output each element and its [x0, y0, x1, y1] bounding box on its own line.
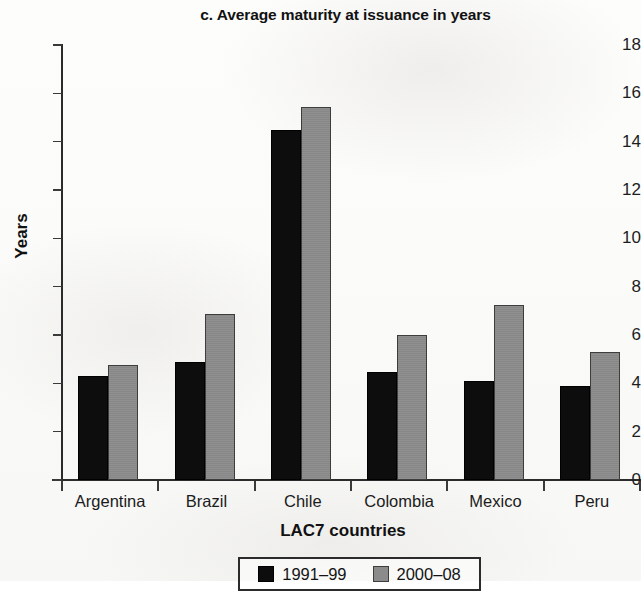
chart-legend: 1991–992000–08: [238, 557, 481, 591]
x-axis-label-mexico: Mexico: [447, 492, 543, 511]
bar-chile-series-0: [271, 130, 301, 480]
y-axis-tick: [53, 383, 62, 385]
bar-mexico-series-1: [494, 305, 524, 480]
bar-argentina-series-1: [108, 365, 138, 480]
y-axis-tick: [53, 286, 62, 288]
x-axis-label-brazil: Brazil: [158, 492, 254, 511]
x-axis-label-colombia: Colombia: [351, 492, 447, 511]
bar-brazil-series-0: [175, 362, 205, 480]
x-axis-tick: [254, 481, 256, 491]
chart-title: c. Average maturity at issuance in years: [0, 6, 641, 24]
legend-swatch-icon: [258, 566, 274, 582]
y-axis-tick: [53, 44, 62, 46]
y-axis-tick: [53, 93, 62, 95]
y-axis-tick: [53, 189, 62, 191]
x-axis-label-peru: Peru: [544, 492, 640, 511]
legend-item-0[interactable]: 1991–99: [258, 565, 346, 584]
legend-item-1[interactable]: 2000–08: [373, 565, 461, 584]
legend-swatch-icon: [373, 566, 389, 582]
bar-peru-series-1: [590, 352, 620, 480]
legend-label: 2000–08: [397, 565, 461, 584]
bar-colombia-series-1: [397, 335, 427, 480]
bar-chile-series-1: [301, 107, 331, 480]
y-axis-tick: [53, 141, 62, 143]
y-axis-tick: [53, 431, 62, 433]
bar-brazil-series-1: [205, 314, 235, 480]
x-axis-label-argentina: Argentina: [62, 492, 158, 511]
x-axis-label-chile: Chile: [255, 492, 351, 511]
bar-colombia-series-0: [367, 372, 397, 480]
plot-area: [62, 45, 640, 480]
bar-mexico-series-0: [464, 381, 494, 480]
bar-peru-series-0: [560, 386, 590, 480]
x-axis-tick: [446, 481, 448, 491]
x-axis-tick: [157, 481, 159, 491]
y-axis-tick: [53, 238, 62, 240]
x-axis-tick: [350, 481, 352, 491]
bar-argentina-series-0: [78, 376, 108, 480]
x-axis-title: LAC7 countries: [0, 521, 641, 541]
x-axis-tick: [543, 481, 545, 491]
y-axis-title: Years: [12, 213, 32, 258]
x-axis-tick: [61, 481, 63, 491]
legend-label: 1991–99: [282, 565, 346, 584]
y-axis-tick: [53, 334, 62, 336]
